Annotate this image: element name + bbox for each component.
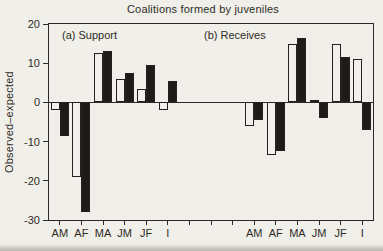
- plot-area: (a) Support (b) Receives: [48, 23, 374, 221]
- page-edge-shadow: [0, 244, 383, 251]
- y-axis-tick-label: 10: [12, 57, 40, 69]
- bar-filled: [168, 81, 177, 103]
- bar-filled: [103, 51, 112, 102]
- bar-open: [310, 100, 319, 102]
- bar-open: [353, 59, 362, 102]
- bar-filled: [276, 102, 285, 151]
- y-axis-tick-label: 0: [12, 96, 40, 108]
- x-axis-tick: [103, 221, 104, 225]
- x-axis-tick: [340, 221, 341, 225]
- y-axis-tick: [43, 220, 48, 221]
- x-axis-tick: [319, 221, 320, 225]
- figure: Coalitions formed by juveniles Observed–…: [0, 0, 383, 251]
- bar-open: [72, 102, 81, 177]
- bar-open: [267, 102, 276, 155]
- bar-open: [332, 44, 341, 103]
- x-axis-tick-label: I: [155, 227, 181, 239]
- x-axis-tick: [81, 221, 82, 225]
- y-axis-tick: [43, 141, 48, 142]
- y-axis-tick-label: -20: [12, 175, 40, 187]
- bar-open: [137, 89, 146, 103]
- bar-filled: [81, 102, 90, 212]
- bar-filled: [362, 102, 371, 129]
- panel-a-label: (a) Support: [62, 29, 117, 41]
- bar-open: [288, 44, 297, 103]
- bar-filled: [297, 38, 306, 103]
- bar-filled: [125, 73, 134, 102]
- bar-filled: [60, 102, 69, 135]
- bar-open: [159, 102, 168, 110]
- y-axis-tick-label: 20: [12, 18, 40, 30]
- x-axis-tick: [146, 221, 147, 225]
- chart-title: Coalitions formed by juveniles: [40, 3, 366, 15]
- y-axis-tick: [43, 180, 48, 181]
- x-axis-tick: [254, 221, 255, 225]
- y-axis-tick: [43, 63, 48, 64]
- bar-open: [116, 79, 125, 103]
- x-axis-tick: [232, 221, 233, 225]
- bar-open: [245, 102, 254, 126]
- bar-filled: [254, 102, 263, 120]
- y-axis-tick-label: -10: [12, 136, 40, 148]
- x-axis-tick-label: I: [349, 227, 375, 239]
- bar-open: [94, 53, 103, 102]
- bar-filled: [341, 57, 350, 102]
- bar-filled: [146, 65, 155, 102]
- y-axis-tick-label: -30: [12, 214, 40, 226]
- x-axis-tick: [297, 221, 298, 225]
- x-axis-tick: [59, 221, 60, 225]
- y-axis-tick: [43, 102, 48, 103]
- x-axis-tick: [124, 221, 125, 225]
- bar-filled: [319, 102, 328, 118]
- y-axis-label: Observed–expected: [3, 23, 18, 221]
- x-axis-tick: [211, 221, 212, 225]
- panel-b-label: (b) Receives: [204, 29, 266, 41]
- x-axis-tick: [189, 221, 190, 225]
- y-axis-tick: [43, 24, 48, 25]
- x-axis-tick: [275, 221, 276, 225]
- bar-open: [51, 102, 60, 110]
- x-axis-tick: [362, 221, 363, 225]
- x-axis-tick: [167, 221, 168, 225]
